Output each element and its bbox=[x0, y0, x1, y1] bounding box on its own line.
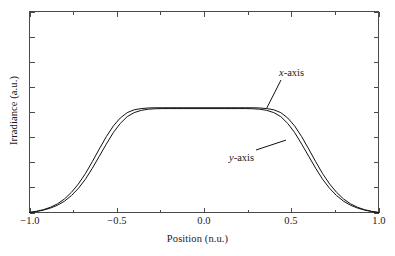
curve-y-axis bbox=[30, 109, 379, 213]
curve-x-axis bbox=[30, 108, 379, 213]
plot-frame bbox=[30, 12, 379, 213]
y-axis-label-suffix: -axis bbox=[234, 152, 254, 163]
x-axis-leader-line bbox=[267, 80, 281, 108]
x-axis-title: Position (n.u.) bbox=[0, 233, 395, 244]
y-axis-leader-line bbox=[256, 140, 286, 150]
x-axis-curve-label: x-axis bbox=[279, 67, 304, 78]
x-tick-label-1: 1.0 bbox=[359, 215, 395, 226]
x-tick-label-0: 0.0 bbox=[184, 215, 224, 226]
data-curves bbox=[30, 108, 379, 213]
y-axis-title: Irradiance (a.u.) bbox=[8, 51, 19, 171]
x-tick-label-neg05: −0.5 bbox=[97, 215, 137, 226]
y-axis-curve-label: y-axis bbox=[229, 152, 254, 163]
x-tick-label-05: 0.5 bbox=[271, 215, 311, 226]
x-axis-label-suffix: -axis bbox=[284, 67, 304, 78]
x-tick-label-neg1: −1.0 bbox=[10, 215, 50, 226]
irradiance-profile-figure: −1.0 −0.5 0.0 0.5 1.0 Position (n.u.) Ir… bbox=[0, 0, 395, 256]
